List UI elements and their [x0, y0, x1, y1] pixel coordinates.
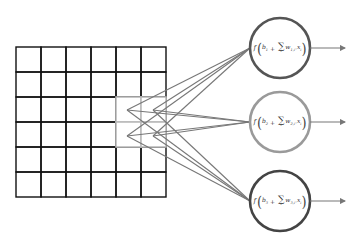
- sum-icon: ∑i: [278, 117, 284, 127]
- left-paren: (: [257, 114, 262, 130]
- grid-cell: [41, 147, 66, 172]
- grid-cell: [141, 147, 166, 172]
- connection-line: [127, 48, 250, 110]
- neuron-formula: f(b3 + ∑iw3,i·xi): [251, 191, 309, 211]
- grid-cell: [141, 72, 166, 97]
- plus: +: [268, 119, 277, 126]
- grid-cell: [16, 47, 41, 72]
- grid-cell: [116, 147, 141, 172]
- grid-cell: [91, 147, 116, 172]
- neuron-formula: f(b1 + ∑iw1,i·xi): [251, 38, 309, 58]
- activation-fn: f: [254, 197, 256, 205]
- connection-line: [153, 110, 250, 122]
- connection-line: [153, 48, 250, 110]
- right-paren: ): [301, 114, 306, 130]
- neuron-formula: f(b2 + ∑iw2,i·xi): [251, 112, 309, 132]
- weight: w3,i: [285, 196, 295, 205]
- left-paren: (: [257, 40, 262, 56]
- sum-icon: ∑i: [278, 43, 284, 53]
- activation-fn: f: [254, 44, 256, 52]
- grid-cell: [16, 147, 41, 172]
- plus: +: [268, 198, 277, 205]
- activation-fn: f: [254, 118, 256, 126]
- grid-cell: [16, 72, 41, 97]
- grid-cell: [116, 72, 141, 97]
- sum-icon: ∑i: [278, 196, 284, 206]
- grid-cell: [91, 122, 116, 147]
- grid-cell: [91, 72, 116, 97]
- weight: w2,i: [285, 117, 295, 126]
- grid-cell: [41, 47, 66, 72]
- grid-cell: [41, 122, 66, 147]
- grid-cell: [41, 72, 66, 97]
- grid-cell: [141, 172, 166, 197]
- grid-cell: [16, 172, 41, 197]
- connection-line: [153, 48, 250, 136]
- connection-line: [127, 136, 250, 201]
- grid-cell: [91, 47, 116, 72]
- grid-cell: [41, 97, 66, 122]
- grid-cell: [66, 122, 91, 147]
- grid-cell: [66, 97, 91, 122]
- right-paren: ): [301, 193, 306, 209]
- grid-cell: [66, 47, 91, 72]
- grid-cell: [116, 47, 141, 72]
- weight: w1,i: [285, 43, 295, 52]
- grid-cell: [16, 97, 41, 122]
- grid-cell: [141, 47, 166, 72]
- left-paren: (: [257, 193, 262, 209]
- grid-cell: [16, 122, 41, 147]
- grid-cell: [66, 172, 91, 197]
- grid-cell: [41, 172, 66, 197]
- connection-line: [127, 48, 250, 136]
- connection-line: [153, 136, 250, 201]
- grid-cell: [91, 172, 116, 197]
- grid-cell: [91, 97, 116, 122]
- grid-cell: [116, 172, 141, 197]
- right-paren: ): [301, 40, 306, 56]
- plus: +: [268, 45, 277, 52]
- grid-cell: [66, 147, 91, 172]
- grid-cell: [66, 72, 91, 97]
